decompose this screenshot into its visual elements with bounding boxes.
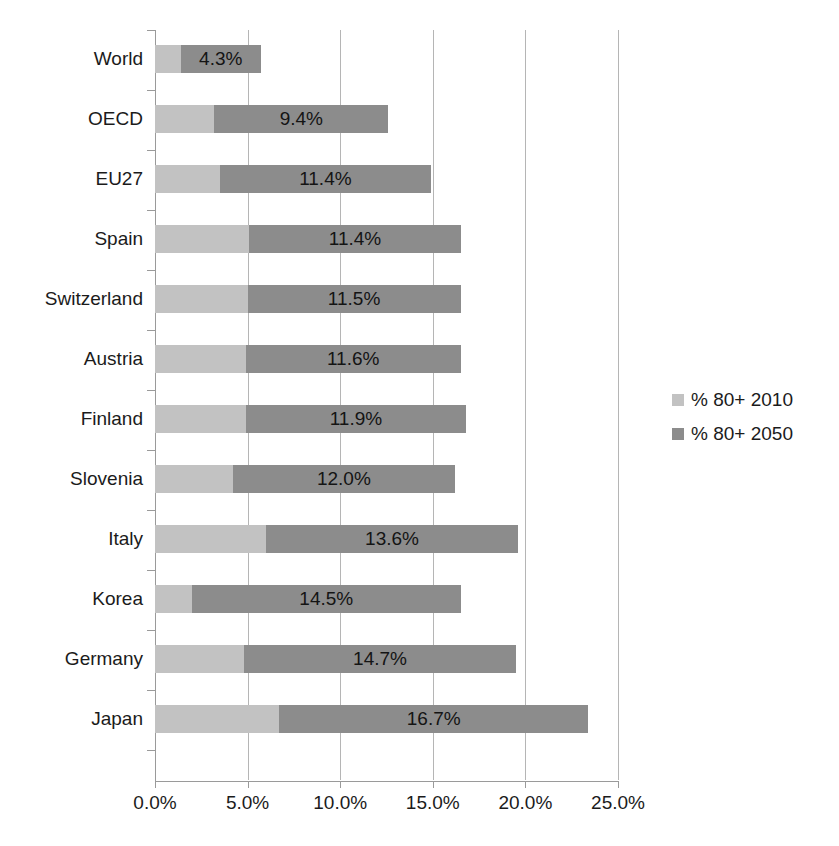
legend-item-2010: % 80+ 2010: [672, 383, 832, 417]
x-axis-tick-label: 0.0%: [133, 792, 176, 814]
bar-segment-2010: [155, 705, 279, 733]
category-label: Italy: [0, 525, 143, 553]
y-axis-tick: [147, 90, 155, 91]
bar-segment-2010: [155, 345, 246, 373]
y-axis-tick: [147, 630, 155, 631]
x-axis-tick-label: 5.0%: [226, 792, 269, 814]
legend-label-2050: % 80+ 2050: [691, 423, 793, 445]
x-axis-tick-label: 15.0%: [406, 792, 460, 814]
bar-segment-2010: [155, 405, 246, 433]
x-axis-tick-label: 10.0%: [313, 792, 367, 814]
legend-item-2050: % 80+ 2050: [672, 417, 832, 451]
x-axis-tick: [525, 781, 526, 788]
category-label: Germany: [0, 645, 143, 673]
y-axis-tick: [147, 570, 155, 571]
bar-value-label: 11.6%: [246, 345, 461, 373]
category-label: Switzerland: [0, 285, 143, 313]
x-axis-tick-label: 20.0%: [498, 792, 552, 814]
bar-segment-2010: [155, 285, 248, 313]
category-label: Finland: [0, 405, 143, 433]
legend-swatch-2050-icon: [672, 428, 684, 440]
x-axis-line: [155, 781, 619, 782]
y-axis-tick: [147, 330, 155, 331]
bar-value-label: 14.7%: [244, 645, 516, 673]
category-label: Austria: [0, 345, 143, 373]
x-axis-tick: [433, 781, 434, 788]
bar-value-label: 16.7%: [279, 705, 588, 733]
bar-value-label: 11.9%: [246, 405, 466, 433]
bar-segment-2010: [155, 105, 214, 133]
bar-value-label: 11.4%: [220, 165, 431, 193]
bar-value-label: 12.0%: [233, 465, 455, 493]
legend-swatch-2010-icon: [672, 394, 684, 406]
bar-value-label: 4.3%: [181, 45, 261, 73]
x-axis-tick: [248, 781, 249, 788]
bar-segment-2010: [155, 45, 181, 73]
legend-label-2010: % 80+ 2010: [691, 389, 793, 411]
bar-value-label: 11.5%: [248, 285, 461, 313]
category-label: Spain: [0, 225, 143, 253]
category-label: World: [0, 45, 143, 73]
category-label: Korea: [0, 585, 143, 613]
stacked-bar-chart: 4.3%9.4%11.4%11.4%11.5%11.6%11.9%12.0%13…: [0, 0, 839, 846]
bar-value-label: 9.4%: [214, 105, 388, 133]
x-axis-tick-label: 25.0%: [591, 792, 645, 814]
bar-value-label: 11.4%: [249, 225, 460, 253]
x-axis-tick: [618, 781, 619, 788]
x-axis-tick: [340, 781, 341, 788]
category-label: Slovenia: [0, 465, 143, 493]
y-axis-tick: [147, 150, 155, 151]
y-axis-tick: [147, 750, 155, 751]
chart-legend: % 80+ 2010 % 80+ 2050: [672, 383, 832, 451]
bar-segment-2010: [155, 465, 233, 493]
bar-segment-2010: [155, 225, 249, 253]
y-axis-tick: [147, 30, 155, 31]
bar-value-label: 14.5%: [192, 585, 461, 613]
y-axis-tick: [147, 450, 155, 451]
category-label: EU27: [0, 165, 143, 193]
bar-segment-2010: [155, 645, 244, 673]
y-axis-tick: [147, 270, 155, 271]
bar-segment-2010: [155, 165, 220, 193]
y-axis-tick: [147, 210, 155, 211]
category-label: OECD: [0, 105, 143, 133]
y-axis-tick: [147, 510, 155, 511]
y-axis-tick: [147, 390, 155, 391]
bar-value-label: 13.6%: [266, 525, 518, 553]
bar-segment-2010: [155, 525, 266, 553]
category-label: Japan: [0, 705, 143, 733]
x-axis-tick: [155, 781, 156, 788]
y-axis-tick: [147, 690, 155, 691]
bar-segment-2010: [155, 585, 192, 613]
